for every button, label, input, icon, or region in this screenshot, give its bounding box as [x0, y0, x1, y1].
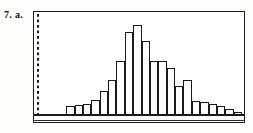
histogram-figure: 7. a.	[0, 0, 253, 133]
problem-part: a.	[15, 9, 23, 20]
histogram-bar	[150, 61, 158, 116]
histogram-bar	[125, 32, 133, 116]
histogram-bar	[167, 68, 175, 116]
histogram-bar	[133, 25, 141, 116]
histogram-bar	[158, 61, 166, 116]
histogram-bars	[34, 18, 244, 116]
histogram-bar	[100, 91, 108, 116]
x-axis-baseline	[34, 114, 244, 116]
histogram-bar	[108, 80, 116, 116]
histogram-bar	[183, 80, 191, 116]
histogram-bar	[175, 86, 183, 116]
chart-frame	[33, 11, 245, 123]
x-axis-lower-rule	[34, 120, 244, 121]
problem-number: 7.	[4, 9, 12, 20]
problem-label: 7. a.	[4, 9, 23, 20]
histogram-bar	[116, 61, 124, 116]
histogram-bar	[142, 41, 150, 116]
plot-area	[34, 12, 244, 122]
